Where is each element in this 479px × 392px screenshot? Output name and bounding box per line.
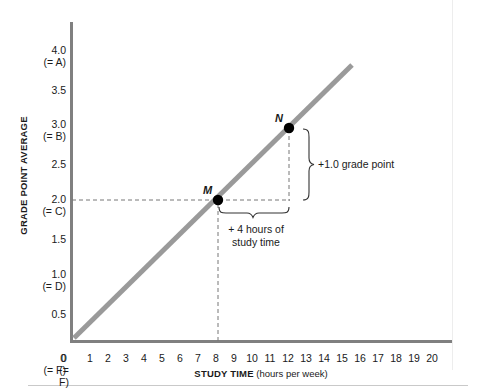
data-point-label-m: M — [203, 184, 212, 196]
annotation-run-line1: + 4 hours of — [228, 223, 284, 235]
data-point-n[interactable] — [284, 123, 294, 133]
data-point-label-n: N — [275, 112, 283, 124]
annotation-run: + 4 hours of study time — [208, 223, 304, 249]
brace-rise — [303, 129, 314, 200]
annotation-rise: +1.0 grade point — [318, 158, 394, 171]
annotation-run-line2: study time — [232, 236, 280, 248]
chart-figure: 4.0 (= A) 3.5 3.0 (= B) 2.5 2.0 (= C) 1.… — [0, 0, 479, 392]
trend-line — [74, 65, 352, 338]
plot-graphics — [0, 0, 479, 392]
brace-run — [219, 207, 289, 218]
data-point-m[interactable] — [213, 195, 223, 205]
